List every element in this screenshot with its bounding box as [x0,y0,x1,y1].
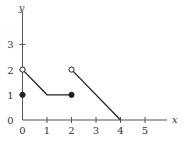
labels: 0123450123xy [7,2,178,136]
x-tick-label: 1 [44,125,50,136]
y-tick-label: 3 [7,39,13,50]
segment-2 [72,70,121,120]
axes [23,12,168,120]
segment-1 [23,70,72,95]
x-tick-label: 2 [68,125,74,136]
x-tick-label: 0 [19,125,25,136]
open-point-marker [20,67,25,72]
closed-point-marker [20,92,25,97]
y-tick-label: 1 [7,90,13,101]
x-tick-label: 5 [142,125,148,136]
y-tick-label: 0 [7,115,13,126]
y-tick-label: 2 [7,65,13,76]
piecewise-function-graph: 0123450123xy [0,0,185,146]
plot-area: 0123450123xy [0,0,185,146]
closed-point-marker [69,92,74,97]
ticks [20,44,146,123]
open-point-marker [69,67,74,72]
markers [20,67,74,97]
y-axis-label: y [18,2,25,13]
x-tick-label: 4 [117,125,123,136]
x-tick-label: 3 [93,125,99,136]
x-axis-label: x [172,114,178,125]
